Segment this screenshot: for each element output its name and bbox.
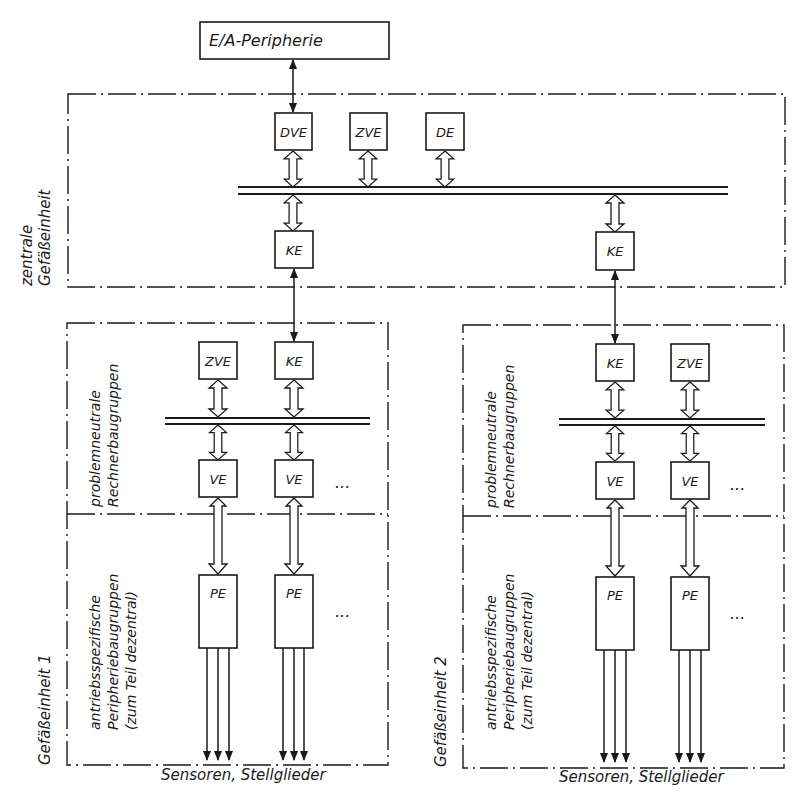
unit2-ve2-bus-arrow (681, 426, 698, 461)
unit2-name: Gefäßeinheit 2 (432, 656, 450, 767)
svg-text:VE: VE (285, 472, 303, 487)
unit2-local-bus (559, 419, 765, 425)
unit1-ke-module: KE (275, 342, 313, 379)
unit1-upper-label-1: problemneutrale (87, 390, 103, 508)
zve-module: ZVE (350, 113, 387, 150)
unit2-zve-bus-arrow (681, 382, 699, 418)
svg-text:PE: PE (210, 586, 227, 601)
svg-text:PE: PE (682, 588, 699, 603)
unit2-ke-bus-arrow (606, 382, 624, 418)
unit1-pe-ellipsis: ... (335, 602, 350, 621)
vessel-unit-1: Gefäßeinheit 1 problemneutrale Rechnerba… (36, 323, 388, 784)
unit1-outputs-label: Sensoren, Stellglieder (161, 766, 326, 784)
central-unit: zentrale Gefäßeinheit DVE ZVE DE KE (18, 94, 785, 287)
central-unit-label-2: Gefäßeinheit (36, 188, 54, 286)
unit2-ve-pe-arrow-2 (681, 500, 699, 576)
unit1-ve-module-1: VE (199, 460, 237, 497)
unit2-ve-module-1: VE (596, 462, 634, 499)
unit1-pe-module-2: PE (275, 575, 313, 648)
svg-text:DE: DE (436, 125, 455, 140)
unit1-lower-label-2: Peripheriebaugruppen (105, 574, 121, 730)
unit1-ve2-bus-arrow (285, 425, 302, 460)
unit1-output-arrows (207, 648, 304, 760)
de-module: DE (426, 113, 464, 150)
svg-text:PE: PE (607, 588, 624, 603)
system-block-diagram: E/A-Peripherie zentrale Gefäßeinheit DVE… (0, 0, 811, 805)
svg-text:KE: KE (286, 354, 304, 369)
unit1-ve-pe-arrow-1 (209, 498, 227, 574)
unit1-local-bus (165, 418, 370, 424)
unit1-name: Gefäßeinheit 1 (36, 654, 54, 765)
svg-text:ZVE: ZVE (204, 354, 232, 369)
vessel-unit-2: Gefäßeinheit 2 problemneutrale Rechnerba… (432, 325, 784, 786)
unit2-output-arrows (604, 650, 701, 762)
svg-text:DVE: DVE (280, 125, 308, 140)
unit2-upper-label-1: problemneutrale (483, 391, 499, 509)
unit2-pe-module-1: PE (596, 577, 634, 650)
unit2-lower-label-1: antriebsspezifische (483, 595, 499, 730)
svg-text:VE: VE (209, 472, 227, 487)
central-unit-label-1: zentrale (18, 225, 36, 287)
dve-bus-arrow (284, 151, 302, 187)
unit1-ve-module-2: VE (275, 460, 313, 497)
unit1-ve1-bus-arrow (209, 425, 226, 460)
zve-bus-arrow (359, 151, 377, 187)
svg-text:KE: KE (286, 243, 304, 258)
svg-text:KE: KE (607, 356, 625, 371)
unit1-lower-label-3: (zum Teil dezentral) (123, 591, 139, 730)
svg-text:ZVE: ZVE (354, 125, 382, 140)
de-bus-arrow (436, 151, 454, 187)
unit1-ke-bus-arrow (285, 380, 303, 417)
coupler-ke-1: KE (275, 231, 313, 268)
unit1-zve-bus-arrow (209, 380, 227, 417)
unit1-ve-ellipsis: ... (335, 473, 350, 492)
unit2-ve-pe-arrow-1 (606, 500, 624, 576)
central-system-bus (238, 187, 728, 194)
unit1-pe-module-1: PE (199, 575, 237, 648)
unit2-outputs-label: Sensoren, Stellglieder (559, 768, 724, 786)
unit1-ve-pe-arrow-2 (285, 498, 303, 574)
unit2-lower-label-2: Peripheriebaugruppen (501, 574, 517, 730)
dve-module: DVE (275, 113, 312, 150)
svg-text:KE: KE (607, 244, 625, 259)
svg-text:PE: PE (286, 586, 303, 601)
svg-text:VE: VE (606, 474, 624, 489)
ke1-bus-arrow (284, 195, 302, 231)
unit1-lower-label-1: antriebsspezifische (87, 595, 103, 730)
svg-text:VE: VE (681, 474, 699, 489)
unit2-ve-module-2: VE (671, 462, 709, 499)
unit2-ve1-bus-arrow (606, 426, 623, 461)
unit2-upper-label-2: Rechnerbaugruppen (501, 365, 517, 508)
io-periphery-box: E/A-Peripherie (200, 22, 389, 59)
unit2-pe-ellipsis: ... (730, 604, 745, 623)
unit1-upper-label-2: Rechnerbaugruppen (105, 364, 121, 507)
unit2-ke-module: KE (596, 344, 634, 381)
unit2-ve-ellipsis: ... (730, 475, 745, 494)
svg-text:ZVE: ZVE (676, 356, 704, 371)
unit2-lower-label-3: (zum Teil dezentral) (519, 591, 535, 730)
unit2-pe-module-2: PE (671, 577, 709, 650)
io-periphery-label: E/A-Peripherie (209, 31, 323, 50)
ke2-bus-arrow (606, 195, 624, 232)
unit1-zve-module: ZVE (199, 342, 237, 379)
unit2-zve-module: ZVE (671, 344, 709, 381)
coupler-ke-2: KE (596, 232, 634, 270)
